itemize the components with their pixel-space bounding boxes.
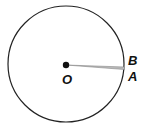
circle-diagram: O B A — [0, 0, 144, 128]
center-point — [63, 62, 69, 68]
label-a: A — [127, 69, 137, 84]
sector-ab — [66, 65, 125, 70]
label-o: O — [62, 72, 72, 87]
label-b: B — [128, 53, 137, 68]
